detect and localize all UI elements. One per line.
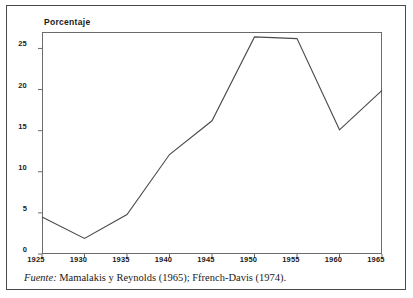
x-tick-label: 1925 — [18, 255, 54, 264]
caption-text: Mamalakis y Reynolds (1965); Ffrench-Dav… — [57, 272, 287, 283]
y-tick-label: 15 — [5, 122, 27, 131]
plot-area — [42, 32, 382, 254]
x-tick-label: 1950 — [231, 255, 267, 264]
y-axis-label: Porcentaje — [44, 17, 90, 27]
y-tick-label: 5 — [5, 204, 27, 213]
figure: Porcentaje 0510152025 192519301935194019… — [0, 0, 413, 298]
x-tick-label: 1965 — [358, 255, 394, 264]
y-tick-label: 20 — [5, 81, 27, 90]
caption-label: Fuente: — [24, 272, 57, 283]
x-tick-label: 1955 — [273, 255, 309, 264]
x-tick-label: 1930 — [61, 255, 97, 264]
y-tick-label: 25 — [5, 39, 27, 48]
figure-frame: Porcentaje 0510152025 192519301935194019… — [6, 5, 406, 290]
x-tick-label: 1945 — [188, 255, 224, 264]
source-caption: Fuente: Mamalakis y Reynolds (1965); Ffr… — [24, 272, 286, 283]
x-tick-label: 1940 — [146, 255, 182, 264]
y-tick-label: 0 — [5, 245, 27, 254]
y-tick-label: 10 — [5, 163, 27, 172]
x-tick-label: 1960 — [316, 255, 352, 264]
x-tick-label: 1935 — [103, 255, 139, 264]
